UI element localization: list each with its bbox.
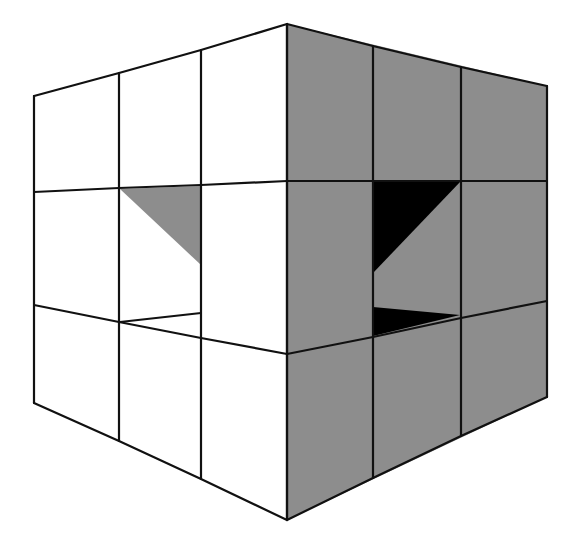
- right-face: [287, 24, 547, 520]
- left-face-fill: [34, 24, 287, 520]
- right-face-fill: [287, 24, 547, 520]
- cube-diagram: [0, 0, 571, 543]
- left-face: [34, 24, 287, 520]
- perspective-cube: [0, 0, 571, 543]
